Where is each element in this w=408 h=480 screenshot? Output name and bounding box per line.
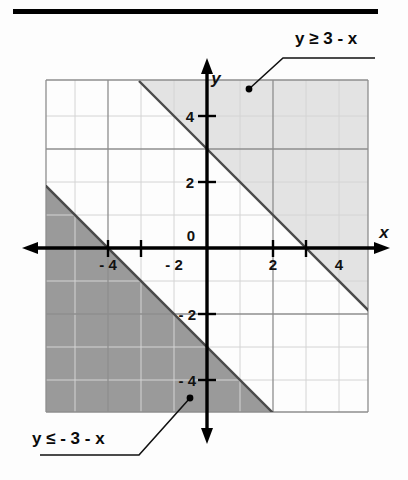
origin-label: 0 [187, 227, 195, 244]
callout-lower-label: y ≤ - 3 - x [32, 429, 105, 448]
callout-upper-label: y ≥ 3 - x [295, 29, 358, 48]
inequality-graph-figure: y x 0 - 4 - 2 2 4 4 2 - 2 - 4 y ≥ 3 - x … [0, 0, 408, 480]
y-axis-arrow-down [201, 428, 213, 444]
y-tick-label-2: 2 [186, 174, 194, 191]
y-tick-label-minus2: - 2 [178, 306, 196, 323]
callout-upper-anchor-dot [246, 86, 253, 93]
coordinate-plane: y x 0 - 4 - 2 2 4 4 2 - 2 - 4 y ≥ 3 - x … [0, 0, 408, 480]
y-tick-label-4: 4 [186, 108, 195, 125]
callout-lower-anchor-dot [187, 395, 194, 402]
x-tick-label-minus4: - 4 [99, 256, 117, 273]
x-tick-label-minus2: - 2 [165, 256, 183, 273]
x-axis-arrow-left [22, 242, 38, 254]
x-tick-label-4: 4 [335, 256, 344, 273]
x-axis-label: x [378, 223, 390, 242]
x-axis-arrow-right [374, 242, 390, 254]
y-axis-label: y [210, 69, 222, 88]
x-tick-label-2: 2 [269, 256, 277, 273]
y-tick-label-minus4: - 4 [178, 372, 196, 389]
